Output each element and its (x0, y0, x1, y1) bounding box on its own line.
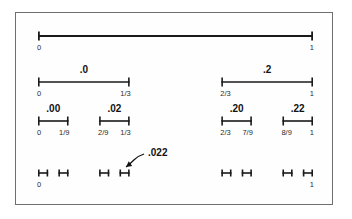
rows-group: 01.0.201/32/31.00.02.20.2201/92/91/32/37… (37, 32, 314, 190)
axis-tick-label: 1 (310, 180, 314, 189)
axis-tick-label: 0 (37, 128, 41, 137)
axis-tick-label: 0 (37, 89, 41, 98)
axis-tick-label: 1 (310, 43, 314, 52)
axis-tick-label: 8/9 (281, 128, 291, 137)
segment-code-label: .22 (291, 103, 305, 114)
segment (303, 170, 313, 177)
segment: .22 (282, 103, 313, 126)
axis-tick-label: 1 (310, 89, 314, 98)
segment: .00 (38, 103, 69, 126)
figure-page: 01.0.201/32/31.00.02.20.2201/92/91/32/37… (0, 0, 352, 219)
segment-code-label: .20 (230, 103, 244, 114)
callout-text: .022 (148, 147, 168, 158)
axis-tick-label: 0 (37, 180, 41, 189)
segment-code-label: .0 (80, 64, 89, 75)
segment (99, 170, 109, 177)
axis-tick-label: 7/9 (242, 128, 252, 137)
axis-tick-label: 2/3 (220, 128, 230, 137)
axis-tick-label: 1/3 (120, 128, 130, 137)
segment: .0 (38, 64, 130, 87)
annotations-group: .022 (126, 147, 168, 167)
cantor-set-diagram: 01.0.201/32/31.00.02.20.2201/92/91/32/37… (0, 0, 352, 219)
segment (221, 170, 231, 177)
segment: .20 (221, 103, 252, 126)
segment-code-label: .02 (107, 103, 121, 114)
axis-tick-label: 1 (310, 128, 314, 137)
segment-code-label: .00 (46, 103, 60, 114)
callout-annotation: .022 (126, 147, 168, 167)
segment-code-label: .2 (263, 64, 272, 75)
axis-tick-label: 1/9 (59, 128, 69, 137)
cantor-row-3: 01 (37, 170, 314, 190)
axis-tick-label: 2/9 (98, 128, 108, 137)
segment (282, 170, 292, 177)
cantor-row-1: .0.201/32/31 (37, 64, 314, 98)
segment (38, 32, 313, 41)
axis-tick-label: 0 (37, 43, 41, 52)
axis-tick-label: 1/3 (120, 89, 130, 98)
cantor-row-0: 01 (37, 32, 314, 53)
segment: .02 (99, 103, 130, 126)
segment (242, 170, 252, 177)
segment (119, 170, 129, 177)
axis-tick-label: 2/3 (220, 89, 230, 98)
segment (38, 170, 48, 177)
segment: .2 (221, 64, 313, 87)
cantor-row-2: .00.02.20.2201/92/91/32/37/98/91 (37, 103, 314, 137)
segment (58, 170, 68, 177)
